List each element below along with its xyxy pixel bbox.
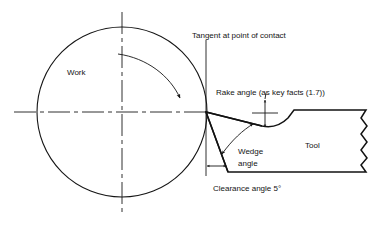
diagram-canvas: Work Tool Tangent at point of contact Ra…: [0, 0, 379, 231]
label-tangent-at-point-of-contact: Tangent at point of contact: [192, 31, 287, 40]
label-wedge-angle-line-1: Wedge: [238, 147, 264, 156]
tool-body-outline: [206, 110, 367, 172]
flank-face-edge: [206, 112, 228, 172]
label-clearance-angle: Clearance angle 5°: [213, 184, 281, 193]
label-tool: Tool: [305, 141, 320, 150]
rotation-arrow-group: [118, 54, 180, 98]
rotation-direction-arrow-icon: [118, 54, 180, 98]
label-wedge-angle-line-2: angle: [238, 159, 258, 168]
workpiece-group: [14, 12, 207, 214]
label-rake-angle: Rake angle (as key facts (1.7)): [216, 88, 325, 97]
tool-geometry-diagram: Work Tool Tangent at point of contact Ra…: [0, 0, 379, 231]
rake-face-edge: [206, 112, 262, 126]
cutting-tool-group: [206, 110, 367, 172]
rake-angle-indicator-group: [252, 100, 278, 127]
label-work: Work: [67, 68, 87, 77]
